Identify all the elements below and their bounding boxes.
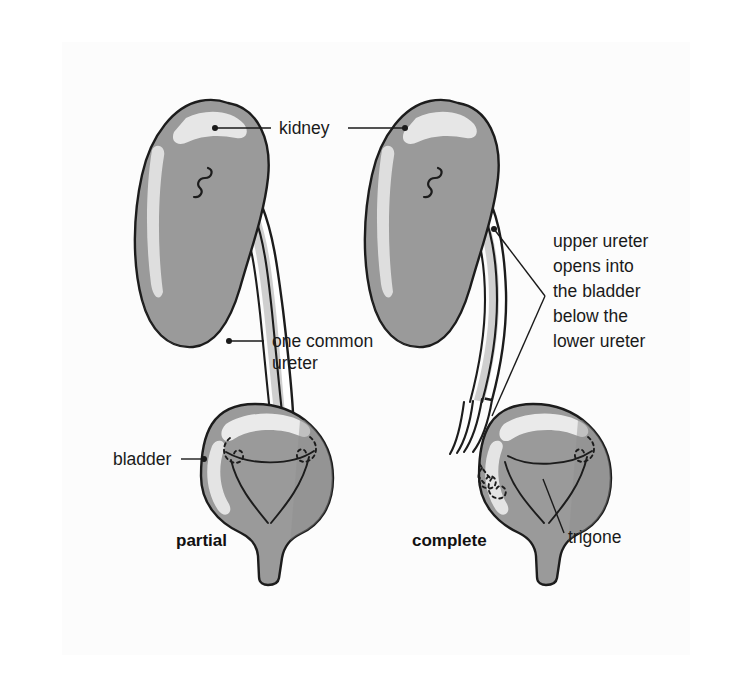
label-trigone: trigone xyxy=(568,527,622,547)
anatomy-diagram: partial xyxy=(0,0,739,680)
annotation-one-common-ureter: one common ureter xyxy=(226,331,373,373)
bladder-leader-dot xyxy=(201,456,207,462)
label-one-common-ureter-line2: ureter xyxy=(272,353,318,373)
kidney-leader-dot-right xyxy=(402,125,408,131)
label-upper-ureter-line1: upper ureter xyxy=(553,231,649,251)
figure-root: partial xyxy=(0,0,739,680)
left-kidney xyxy=(130,100,272,360)
caption-partial: partial xyxy=(176,531,227,550)
label-upper-ureter-line2: opens into xyxy=(553,256,634,276)
label-bladder: bladder xyxy=(113,449,172,469)
caption-complete: complete xyxy=(412,531,487,550)
label-upper-ureter-line3: the bladder xyxy=(553,281,641,301)
label-upper-ureter-line4: below the xyxy=(553,306,628,326)
label-kidney: kidney xyxy=(279,118,330,138)
label-one-common-ureter-line1: one common xyxy=(272,331,373,351)
left-bladder xyxy=(201,404,340,585)
right-kidney xyxy=(360,100,502,360)
label-upper-ureter-line5: lower ureter xyxy=(553,331,646,351)
annotation-upper-ureter: upper ureter opens into the bladder belo… xyxy=(491,226,649,416)
annotation-bladder: bladder xyxy=(113,449,207,469)
